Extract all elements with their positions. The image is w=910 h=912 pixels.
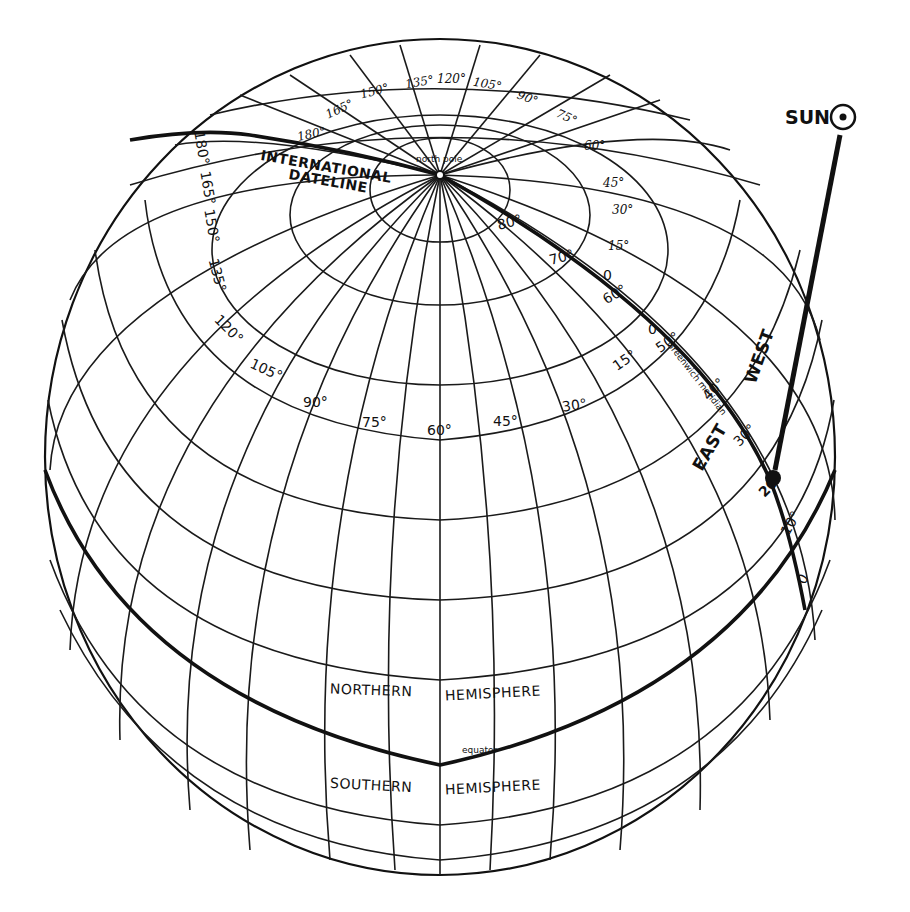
equator-label: equator <box>462 746 497 755</box>
lon-label-90-lower: 90° <box>303 395 328 409</box>
lon-label-75-lower: 75° <box>362 415 387 429</box>
globe-diagram <box>0 0 910 912</box>
southern-label-1: SOUTHERN <box>330 776 413 794</box>
greenwich-zero-2: 0 <box>648 322 657 336</box>
lon-label-45-upper: 45° <box>603 177 624 189</box>
sun-icon-center <box>840 114 847 121</box>
lon-label-120-upper: 120° <box>437 73 466 85</box>
lon-label-30-lower: 30° <box>561 396 588 413</box>
lon-label-45-lower: 45° <box>493 414 518 428</box>
parallels <box>48 89 834 860</box>
north-pole-dot <box>436 171 444 179</box>
lon-label-60-lower: 60° <box>427 423 452 437</box>
greenwich-zero-1: 0 <box>603 268 612 282</box>
lon-label-15-upper: 15° <box>608 240 629 252</box>
lon-label-30-upper: 30° <box>612 204 633 216</box>
northern-label-1: NORTHERN <box>330 682 413 699</box>
lon-label-60-upper: 60° <box>584 140 605 152</box>
sun-label: SUN <box>785 108 830 127</box>
north-pole-label: north pole <box>416 155 462 164</box>
meridians <box>50 45 835 875</box>
